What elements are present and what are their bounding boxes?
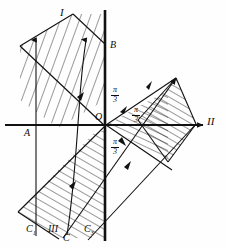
label-origin-O: O [95,112,102,122]
arrowhead-low-mid [124,161,131,170]
label-point-C1-subscript: 1 [33,230,36,236]
angle-label-lower: π 3 [111,138,119,156]
label-axis-II: II [207,116,214,127]
label-point-A: A [24,128,30,138]
angle-inner-denominator: 3 [132,116,140,124]
diagram-svg [0,0,226,249]
angle-upper-numerator: π [111,86,119,94]
arrowhead-upper-ray [120,106,127,114]
label-point-C1-base: C [26,223,33,234]
label-point-B: B [110,40,116,50]
arrowhead-C3-mid [146,81,152,90]
angle-lower-numerator: π [111,138,119,146]
angle-inner-numerator: π [132,106,140,114]
label-point-C: C [63,233,70,243]
label-region-III: III [48,224,58,234]
label-region-I: I [60,7,64,18]
angle-label-upper: π 3 [111,86,119,104]
region-III-hatch [18,131,105,238]
label-point-C3-subscript: 3 [91,230,94,236]
label-point-C1: C1 [26,224,36,236]
region-I-hatch [20,14,105,128]
diagram-canvas: I II III O A B C C1 C3 π 3 π 3 π 3 [0,0,226,249]
angle-upper-denominator: 3 [111,96,119,104]
angle-lower-denominator: 3 [111,148,119,156]
angle-label-inner: π 3 [132,106,140,124]
label-point-C3-base: C [84,223,91,234]
label-point-C3: C3 [84,224,94,236]
